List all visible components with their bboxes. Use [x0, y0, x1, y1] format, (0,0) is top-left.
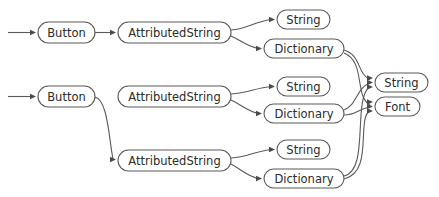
arrowhead-to-string-1 — [269, 17, 275, 23]
edge-dictionary-3-to-string-shared — [344, 86, 370, 176]
object-graph-diagram: ButtonAttributedStringStringDictionaryBu… — [0, 0, 439, 197]
node-label-string-3: String — [286, 143, 320, 157]
arrowhead-to-dictionary-3 — [256, 176, 262, 182]
arrowhead-to-button-2 — [30, 94, 36, 100]
node-string-shared[interactable]: String — [375, 73, 428, 92]
edge-attributedstring-2-to-string-2 — [231, 87, 272, 95]
edge-attributedstring-1-to-dictionary-1 — [231, 36, 259, 49]
node-attributedstring-2[interactable]: AttributedString — [118, 86, 231, 107]
edge-attributedstring-2-to-dictionary-2 — [231, 100, 259, 114]
node-label-dictionary-2: Dictionary — [275, 107, 334, 121]
node-button-1[interactable]: Button — [38, 22, 95, 43]
node-label-dictionary-3: Dictionary — [275, 172, 334, 186]
node-label-button-1: Button — [47, 26, 86, 40]
node-label-button-2: Button — [47, 90, 86, 104]
node-dictionary-3[interactable]: Dictionary — [264, 169, 344, 188]
arrowhead-to-string-3 — [269, 147, 275, 153]
arrowhead-to-button-1 — [30, 30, 36, 36]
node-dictionary-1[interactable]: Dictionary — [264, 39, 344, 58]
edge-attributedstring-1-to-string-1 — [231, 20, 272, 31]
node-button-2[interactable]: Button — [38, 86, 95, 107]
arrowhead-to-font-shared — [367, 108, 373, 114]
node-string-2[interactable]: String — [277, 77, 330, 96]
node-attributedstring-1[interactable]: AttributedString — [118, 22, 231, 43]
node-label-attributedstring-3: AttributedString — [128, 154, 220, 168]
graph-canvas: ButtonAttributedStringStringDictionaryBu… — [0, 0, 439, 197]
arrowhead-to-dictionary-1 — [256, 46, 262, 52]
node-label-font-shared: Font — [385, 100, 411, 114]
node-label-attributedstring-2: AttributedString — [128, 90, 220, 104]
node-label-string-shared: String — [384, 76, 418, 90]
arrowhead-to-string-shared — [367, 84, 373, 90]
node-attributedstring-3[interactable]: AttributedString — [118, 150, 231, 171]
arrowhead-to-string-2 — [269, 84, 275, 90]
arrowhead-to-dictionary-2 — [256, 111, 262, 117]
arrowhead-to-attributedstring-1 — [110, 30, 116, 36]
node-label-string-2: String — [286, 80, 320, 94]
node-dictionary-2[interactable]: Dictionary — [264, 104, 344, 123]
edge-button-2-to-attributedstring-3 — [95, 97, 113, 159]
node-string-1[interactable]: String — [277, 10, 330, 29]
arrowhead-to-string-shared — [367, 80, 373, 86]
edge-dictionary-2-to-string-shared — [344, 83, 370, 110]
node-string-3[interactable]: String — [277, 140, 330, 159]
node-label-string-1: String — [286, 13, 320, 27]
edge-attributedstring-3-to-string-3 — [231, 150, 272, 159]
node-label-dictionary-1: Dictionary — [275, 42, 334, 56]
edge-dictionary-3-to-font-shared — [344, 110, 370, 179]
arrowhead-to-font-shared — [367, 99, 373, 105]
node-label-attributedstring-1: AttributedString — [128, 26, 220, 40]
node-font-shared[interactable]: Font — [375, 97, 420, 116]
edge-attributedstring-3-to-dictionary-3 — [231, 164, 259, 179]
